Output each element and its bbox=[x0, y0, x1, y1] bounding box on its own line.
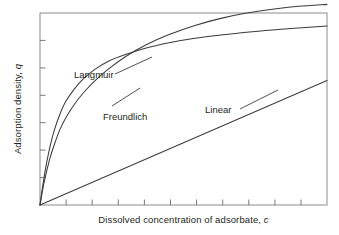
curve-label-freundlich: Freundlich bbox=[103, 111, 147, 122]
curve-label-linear: Linear bbox=[205, 104, 231, 115]
x-axis-title: Dissolved concentration of adsorbate, c bbox=[40, 214, 327, 225]
x-axis-title-text: Dissolved concentration of adsorbate, bbox=[98, 214, 263, 225]
plot-frame bbox=[40, 13, 327, 205]
x-axis-title-variable: c bbox=[264, 214, 269, 225]
plot-area: Langmuir Freundlich Linear bbox=[0, 0, 339, 235]
curve-label-langmuir: Langmuir bbox=[74, 69, 114, 80]
adsorption-isotherm-figure: Adsorption density, q bbox=[0, 0, 339, 235]
